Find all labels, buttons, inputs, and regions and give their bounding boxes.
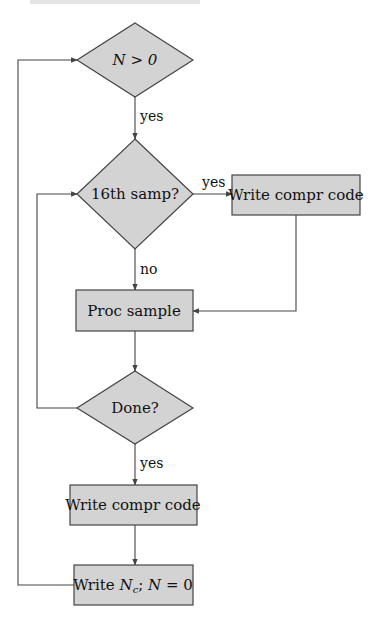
decision-n-greater-than-zero: N > 0 bbox=[77, 23, 193, 97]
edge-label-yes-3: yes bbox=[139, 455, 163, 471]
edge-done-loop-to-sample16 bbox=[37, 194, 77, 408]
edge-label-yes-1: yes bbox=[139, 108, 163, 124]
process-label: Write compr code bbox=[228, 186, 364, 204]
flowchart: yes yes no yes N > 0 16th samp? Write co… bbox=[0, 0, 380, 621]
edge-label-no: no bbox=[140, 261, 157, 277]
process-write-compr-code-bottom: Write compr code bbox=[65, 485, 201, 525]
decision-done: Done? bbox=[77, 371, 193, 444]
process-write-nc-reset-n: Write Nc; N = 0 bbox=[73, 565, 193, 605]
decision-label: 16th samp? bbox=[91, 185, 179, 203]
process-write-compr-code-right: Write compr code bbox=[228, 175, 364, 215]
edge-label-yes-2: yes bbox=[201, 174, 225, 190]
decision-label: Done? bbox=[111, 399, 159, 417]
edge-write-code-right-to-proc-sample bbox=[193, 215, 296, 311]
decision-label: N > 0 bbox=[112, 51, 158, 69]
process-label: Proc sample bbox=[87, 302, 181, 320]
decision-16th-sample: 16th samp? bbox=[77, 139, 193, 249]
process-label: Write compr code bbox=[65, 496, 201, 514]
process-proc-sample: Proc sample bbox=[76, 290, 193, 331]
